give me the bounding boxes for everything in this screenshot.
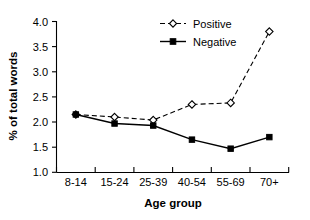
data-point-negative-25-39 <box>151 123 156 128</box>
x-axis-title: Age group <box>144 197 202 209</box>
y-axis-title: % of total words <box>7 52 19 141</box>
x-tick-label: 8-14 <box>65 176 87 188</box>
y-tick-label: 2.0 <box>33 116 48 128</box>
y-tick-label: 2.5 <box>33 91 48 103</box>
x-tick-label: 25-39 <box>139 176 167 188</box>
x-tick-label: 55-69 <box>217 176 245 188</box>
y-tick-label: 1.0 <box>33 166 48 178</box>
legend-label-positive: Positive <box>193 18 232 30</box>
x-tick-label: 15-24 <box>100 176 128 188</box>
y-tick-label: 3.0 <box>33 66 48 78</box>
legend-marker-filled-square-icon <box>170 39 176 45</box>
x-tick-label: 70+ <box>260 176 279 188</box>
data-point-negative-8-14 <box>73 112 78 117</box>
legend-label-negative: Negative <box>193 36 236 48</box>
data-point-negative-40-54 <box>189 137 194 142</box>
y-tick-label: 1.5 <box>33 141 48 153</box>
y-tick-label: 4.0 <box>33 16 48 28</box>
data-point-negative-70+ <box>267 134 272 139</box>
y-tick-label: 3.5 <box>33 41 48 53</box>
x-tick-label: 40-54 <box>178 176 206 188</box>
line-chart: 4.0 3.5 3.0 2.5 2.0 1.5 1.0 8-14 15-24 2… <box>0 0 310 220</box>
data-point-negative-55-69 <box>228 146 233 151</box>
chart-figure: 4.0 3.5 3.0 2.5 2.0 1.5 1.0 8-14 15-24 2… <box>0 0 310 220</box>
data-point-negative-15-24 <box>112 121 117 126</box>
